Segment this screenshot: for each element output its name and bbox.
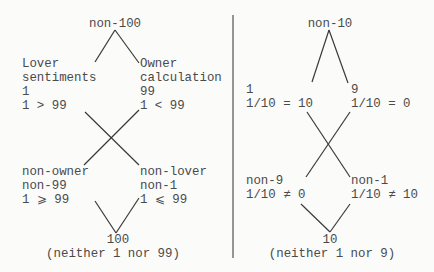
node-line: 9 bbox=[351, 83, 411, 97]
node-line: 1 ⩾ 99 bbox=[22, 193, 89, 207]
left-top-branch-right bbox=[115, 30, 139, 63]
node-line: non-1 bbox=[140, 179, 207, 193]
node-line: 1 < 99 bbox=[140, 99, 222, 113]
node-line: Owner bbox=[140, 57, 222, 71]
right-bottom-branch-left bbox=[301, 204, 330, 232]
right-upper-left-node: 1 1/10 = 10 bbox=[246, 83, 313, 111]
right-bottom-node: 10 bbox=[323, 233, 338, 247]
left-upper-left-node: Lover sentiments 1 1 > 99 bbox=[22, 57, 96, 113]
right-bottom-branch-right bbox=[330, 204, 350, 232]
diagram-root: non-100 Lover sentiments 1 1 > 99 Owner … bbox=[0, 0, 434, 272]
left-cross-a bbox=[85, 112, 139, 165]
node-line: 1/10 = 0 bbox=[351, 97, 411, 111]
node-line: sentiments bbox=[22, 71, 96, 85]
right-upper-right-node: 9 1/10 = 0 bbox=[351, 83, 411, 111]
left-top-node: non-100 bbox=[89, 17, 141, 31]
node-line: 1/10 = 10 bbox=[246, 97, 313, 111]
right-lower-right-node: non-1 1/10 ≠ 10 bbox=[351, 174, 418, 202]
right-top-branch-left bbox=[312, 30, 329, 82]
node-line: 99 bbox=[140, 85, 222, 99]
node-line: non-9 bbox=[246, 174, 306, 188]
node-line: 1 > 99 bbox=[22, 99, 96, 113]
left-bottom-node: 100 bbox=[107, 233, 129, 247]
right-top-branch-right bbox=[329, 30, 348, 83]
right-top-node: non-10 bbox=[308, 17, 353, 31]
connector-lines bbox=[0, 0, 434, 272]
left-lower-right-node: non-lover non-1 1 ⩽ 99 bbox=[140, 165, 207, 207]
node-line: 1/10 ≠ 0 bbox=[246, 188, 306, 202]
node-line: calculation bbox=[140, 71, 222, 85]
left-bottom-branch-left bbox=[95, 201, 116, 233]
right-lower-left-node: non-9 1/10 ≠ 0 bbox=[246, 174, 306, 202]
node-line: non-1 bbox=[351, 174, 418, 188]
right-bottom-note: (neither 1 nor 9) bbox=[269, 247, 395, 261]
node-line: 1/10 ≠ 10 bbox=[351, 188, 418, 202]
node-line: Lover bbox=[22, 57, 96, 71]
left-lower-left-node: non-owner non-99 1 ⩾ 99 bbox=[22, 165, 89, 207]
node-line: 1 ⩽ 99 bbox=[140, 193, 207, 207]
left-bottom-branch-right bbox=[116, 198, 139, 233]
node-line: non-99 bbox=[22, 179, 89, 193]
node-line: 1 bbox=[22, 85, 96, 99]
node-line: 1 bbox=[246, 83, 313, 97]
left-top-branch-left bbox=[95, 30, 115, 62]
left-bottom-note: (neither 1 nor 99) bbox=[46, 247, 180, 261]
node-line: non-lover bbox=[140, 165, 207, 179]
left-upper-right-node: Owner calculation 99 1 < 99 bbox=[140, 57, 222, 113]
node-line: non-owner bbox=[22, 165, 89, 179]
